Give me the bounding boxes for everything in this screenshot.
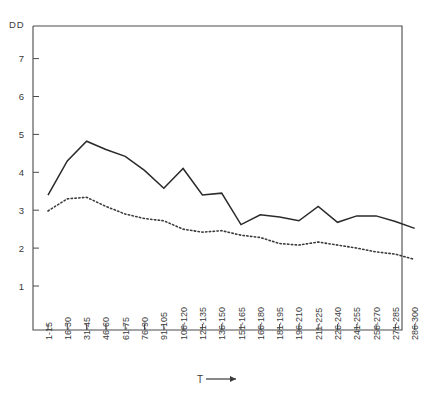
y-tick-label: 2 bbox=[19, 243, 24, 254]
x-axis-tick-labels: 1-1516-3031-4546-6061-7576-9091-105106-1… bbox=[44, 307, 421, 340]
x-tick-label: 106-120 bbox=[179, 307, 189, 340]
y-axis-label: DD bbox=[9, 19, 25, 30]
x-tick-label: 226-240 bbox=[333, 307, 343, 340]
x-tick-label: 46-60 bbox=[101, 317, 111, 340]
y-axis-tick-marks bbox=[33, 59, 39, 286]
x-tick-label: 76-90 bbox=[140, 317, 150, 340]
series-line-solid bbox=[48, 141, 415, 228]
x-axis-arrow-icon bbox=[206, 376, 236, 382]
x-tick-label: 1-15 bbox=[44, 322, 54, 340]
x-tick-label: 16-30 bbox=[63, 317, 73, 340]
x-tick-label: 121-135 bbox=[198, 307, 208, 340]
y-tick-label: 7 bbox=[19, 53, 24, 64]
x-tick-label: 136-150 bbox=[217, 307, 227, 340]
series-line-dotted bbox=[48, 197, 415, 259]
x-tick-label: 271-285 bbox=[391, 307, 401, 340]
line-chart-svg: 1234567 1-1516-3031-4546-6061-7576-9091-… bbox=[0, 0, 424, 396]
y-tick-label: 5 bbox=[19, 129, 24, 140]
plot-frame bbox=[33, 26, 402, 330]
x-tick-label: 91-105 bbox=[159, 312, 169, 340]
y-axis-tick-labels: 1234567 bbox=[19, 53, 24, 291]
y-tick-label: 6 bbox=[19, 91, 24, 102]
x-tick-label: 61-75 bbox=[121, 317, 131, 340]
x-tick-label: 241-255 bbox=[352, 307, 362, 340]
x-tick-label: 196-210 bbox=[294, 307, 304, 340]
x-tick-label: 166-180 bbox=[256, 307, 266, 340]
chart-container: 1234567 1-1516-3031-4546-6061-7576-9091-… bbox=[0, 0, 424, 396]
y-tick-label: 4 bbox=[19, 167, 24, 178]
y-tick-label: 1 bbox=[19, 281, 24, 292]
x-axis-label: T bbox=[197, 374, 203, 385]
x-tick-label: 151-165 bbox=[237, 307, 247, 340]
x-tick-label: 211-225 bbox=[314, 308, 324, 340]
x-tick-label: 286-300 bbox=[410, 307, 420, 340]
y-tick-label: 3 bbox=[19, 205, 24, 216]
x-tick-label: 31-45 bbox=[82, 317, 92, 340]
x-tick-label: 181-195 bbox=[275, 307, 285, 340]
x-tick-label: 256-270 bbox=[372, 307, 382, 340]
